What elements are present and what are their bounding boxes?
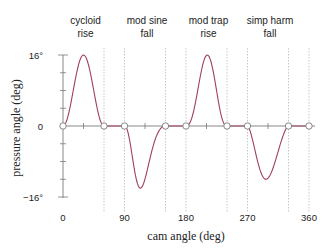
zero-marker [183, 123, 189, 129]
zero-marker [224, 123, 230, 129]
zero-marker [101, 123, 107, 129]
y-tick-label: 0 [38, 121, 43, 132]
x-tick-labels: 090180270360 [60, 212, 317, 223]
x-tick-label: 0 [60, 212, 65, 223]
x-tick-label: 360 [301, 212, 317, 223]
zero-marker [121, 123, 127, 129]
segment-label-line2: fall [264, 28, 277, 39]
y-tick-labels: −16°016° [23, 50, 43, 203]
zero-marker [60, 123, 66, 129]
segment-label-line1: simp harm [247, 15, 294, 26]
zero-marker [285, 123, 291, 129]
segment-label-line1: mod trap [189, 15, 229, 26]
x-tick-label: 270 [240, 212, 256, 223]
segment-labels: cycloidrisemod sinefallmod traprisesimp … [70, 15, 293, 39]
y-axis-title: pressure angle (deg) [9, 79, 23, 176]
segment-label-line2: rise [200, 28, 217, 39]
segment-boundary-lines [104, 48, 309, 212]
pressure-angle-chart: cycloidrisemod sinefallmod traprisesimp … [0, 0, 331, 252]
y-tick-label: 16° [29, 50, 44, 61]
zero-marker [244, 123, 250, 129]
zero-marker [162, 123, 168, 129]
segment-label-line2: rise [77, 28, 94, 39]
y-tick-label: −16° [23, 192, 43, 203]
segment-label-line2: fall [141, 28, 154, 39]
zero-marker [306, 123, 312, 129]
x-tick-label: 180 [178, 212, 194, 223]
x-tick-label: 90 [119, 212, 130, 223]
x-axis-title: cam angle (deg) [147, 229, 224, 243]
segment-label-line1: mod sine [127, 15, 168, 26]
segment-label-line1: cycloid [70, 15, 101, 26]
